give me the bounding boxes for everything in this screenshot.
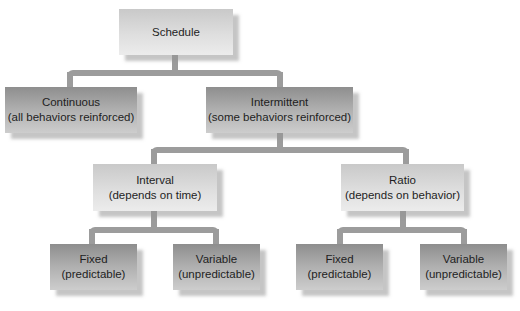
node-interval: Interval (depends on time) bbox=[93, 164, 217, 211]
node-continuous-label: Continuous bbox=[42, 95, 100, 110]
reinforcement-schedule-diagram: Schedule Continuous (all behaviors reinf… bbox=[0, 0, 520, 311]
node-interval-fixed-label: Fixed bbox=[79, 252, 107, 267]
node-ratio-label: Ratio bbox=[389, 173, 416, 188]
node-schedule-label: Schedule bbox=[152, 25, 200, 40]
node-interval-label: Interval bbox=[136, 173, 174, 188]
connector-to-ratio-variable bbox=[461, 229, 467, 245]
node-ratio-fixed: Fixed (predictable) bbox=[296, 244, 383, 290]
connector-ratio-bar bbox=[337, 227, 467, 233]
node-schedule: Schedule bbox=[119, 9, 233, 55]
connector-to-intermittent bbox=[277, 72, 283, 88]
connector-interval-bar bbox=[89, 227, 219, 233]
node-ratio: Ratio (depends on behavior) bbox=[341, 164, 464, 211]
connector-level2-bar bbox=[151, 147, 409, 153]
node-continuous-sublabel: (all behaviors reinforced) bbox=[8, 110, 135, 125]
node-continuous: Continuous (all behaviors reinforced) bbox=[5, 87, 137, 133]
connector-to-ratio bbox=[403, 149, 409, 165]
connector-to-interval-fixed bbox=[89, 229, 95, 245]
node-intermittent-sublabel: (some behaviors reinforced) bbox=[208, 110, 351, 125]
node-ratio-variable-sublabel: (unpredictable) bbox=[425, 267, 502, 282]
node-intermittent: Intermittent (some behaviors reinforced) bbox=[206, 87, 353, 133]
node-interval-variable: Variable (unpredictable) bbox=[173, 244, 260, 290]
connector-to-ratio-fixed bbox=[337, 229, 343, 245]
node-interval-variable-sublabel: (unpredictable) bbox=[178, 267, 255, 282]
node-interval-fixed: Fixed (predictable) bbox=[50, 244, 137, 290]
node-intermittent-label: Intermittent bbox=[251, 95, 309, 110]
node-ratio-fixed-label: Fixed bbox=[325, 252, 353, 267]
connector-to-interval-variable bbox=[213, 229, 219, 245]
connector-to-interval bbox=[151, 149, 157, 165]
node-interval-sublabel: (depends on time) bbox=[109, 188, 202, 203]
node-ratio-sublabel: (depends on behavior) bbox=[345, 188, 460, 203]
node-ratio-variable-label: Variable bbox=[443, 252, 484, 267]
node-ratio-fixed-sublabel: (predictable) bbox=[308, 267, 372, 282]
node-interval-variable-label: Variable bbox=[196, 252, 237, 267]
node-interval-fixed-sublabel: (predictable) bbox=[62, 267, 126, 282]
connector-level1-bar bbox=[67, 70, 283, 76]
node-ratio-variable: Variable (unpredictable) bbox=[420, 244, 507, 290]
connector-to-continuous bbox=[67, 72, 73, 88]
